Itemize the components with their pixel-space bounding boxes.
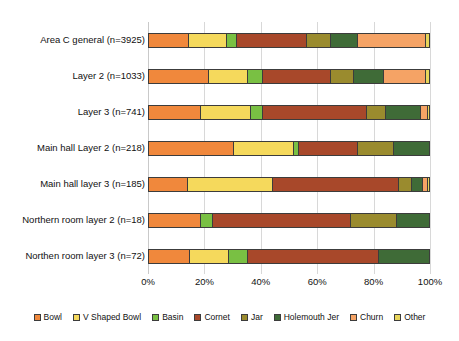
category-label: Northern room layer 2 (n=18) [3,214,145,225]
x-tick-label: 20% [195,276,214,287]
bar-segment-basin[interactable] [227,34,238,47]
legend-item-cornet[interactable]: Cornet [194,312,230,322]
bar-segment-basin[interactable] [229,250,248,263]
legend-label: V Shaped Bowl [83,312,141,322]
bar-segment-other[interactable] [426,70,429,83]
legend-item-holemouth-jer[interactable]: Holemouth Jer [274,312,339,322]
bar-segment-churn[interactable] [384,70,426,83]
bar-row [148,22,430,58]
bar-segment-cornet[interactable] [237,34,306,47]
bar-segment-v-shaped-bowl[interactable] [190,250,230,263]
legend-item-churn[interactable]: Churn [350,312,383,322]
stacked-bar[interactable] [148,213,430,228]
legend-label: Bowl [44,312,62,322]
category-axis-labels: Area C general (n=3925)Layer 2 (n=1033)L… [0,22,145,274]
bar-segment-basin[interactable] [248,70,263,83]
bar-segment-jar[interactable] [307,34,331,47]
bar-segment-v-shaped-bowl[interactable] [189,34,227,47]
bar-segment-bowl[interactable] [149,178,188,191]
bar-segment-cornet[interactable] [248,250,378,263]
legend-label: Basin [162,312,183,322]
stacked-bar[interactable] [148,33,430,48]
bar-segment-v-shaped-bowl[interactable] [234,142,294,155]
legend-swatch-icon [241,314,248,321]
category-label: Main hall layer 3 (n=185) [3,178,145,189]
x-tick-label: 40% [251,276,270,287]
bar-row [148,130,430,166]
bar-segment-bowl[interactable] [149,142,234,155]
legend-item-basin[interactable]: Basin [152,312,183,322]
chart-legend: BowlV Shaped BowlBasinCornetJarHolemouth… [0,306,459,328]
bar-row [148,58,430,94]
stacked-bar[interactable] [148,105,430,120]
bar-segment-holemouth-jer[interactable] [394,142,429,155]
legend-swatch-icon [394,314,401,321]
bar-segment-cornet[interactable] [213,214,351,227]
bar-segment-basin[interactable] [201,214,214,227]
x-tick-label: 80% [364,276,383,287]
stacked-bar[interactable] [148,249,430,264]
bar-row [148,166,430,202]
legend-swatch-icon [350,314,357,321]
bar-series-container [148,22,430,274]
bar-segment-churn[interactable] [358,34,427,47]
bar-segment-v-shaped-bowl[interactable] [201,106,252,119]
bar-segment-holemouth-jer[interactable] [354,70,384,83]
legend-swatch-icon [34,314,41,321]
bar-segment-jar[interactable] [367,106,386,119]
gridline-100 [430,22,431,274]
bar-row [148,94,430,130]
stacked-bar-chart: Area C general (n=3925)Layer 2 (n=1033)L… [0,0,459,341]
plot-area [148,22,430,274]
bar-segment-churn[interactable] [421,106,428,119]
bar-segment-holemouth-jer[interactable] [397,214,429,227]
bar-segment-holemouth-jer[interactable] [386,106,421,119]
legend-label: Churn [360,312,383,322]
legend-item-v-shaped-bowl[interactable]: V Shaped Bowl [73,312,141,322]
category-label: Layer 3 (n=741) [3,106,145,117]
value-axis-labels: 0%20%40%60%80%100% [148,276,430,292]
legend-label: Other [404,312,425,322]
bar-segment-other[interactable] [428,106,429,119]
bar-segment-bowl[interactable] [149,70,209,83]
stacked-bar[interactable] [148,69,430,84]
bar-segment-v-shaped-bowl[interactable] [209,70,249,83]
bar-segment-other[interactable] [428,178,429,191]
bar-row [148,238,430,274]
bar-segment-cornet[interactable] [263,70,330,83]
legend-label: Cornet [204,312,230,322]
legend-swatch-icon [73,314,80,321]
bar-segment-holemouth-jer[interactable] [331,34,358,47]
x-tick-label: 0% [141,276,155,287]
category-label: Main hall Layer 2 (n=218) [3,142,145,153]
bar-row [148,202,430,238]
stacked-bar[interactable] [148,177,430,192]
category-label: Northen room layer 3 (n=72) [3,250,145,261]
legend-label: Jar [251,312,263,322]
bar-segment-holemouth-jer[interactable] [379,250,429,263]
bar-segment-bowl[interactable] [149,250,190,263]
category-label: Area C general (n=3925) [3,34,145,45]
legend-swatch-icon [152,314,159,321]
stacked-bar[interactable] [148,141,430,156]
bar-segment-cornet[interactable] [299,142,358,155]
bar-segment-bowl[interactable] [149,214,201,227]
x-tick-label: 100% [418,276,442,287]
bar-segment-other[interactable] [426,34,429,47]
bar-segment-cornet[interactable] [273,178,399,191]
bar-segment-bowl[interactable] [149,106,201,119]
bar-segment-holemouth-jer[interactable] [412,178,423,191]
legend-swatch-icon [274,314,281,321]
bar-segment-jar[interactable] [351,214,397,227]
bar-segment-jar[interactable] [331,70,355,83]
legend-item-jar[interactable]: Jar [241,312,263,322]
bar-segment-jar[interactable] [358,142,395,155]
legend-item-bowl[interactable]: Bowl [34,312,62,322]
bar-segment-basin[interactable] [251,106,263,119]
bar-segment-jar[interactable] [399,178,412,191]
bar-segment-cornet[interactable] [263,106,367,119]
bar-segment-bowl[interactable] [149,34,189,47]
x-tick-label: 60% [308,276,327,287]
legend-item-other[interactable]: Other [394,312,425,322]
bar-segment-v-shaped-bowl[interactable] [188,178,273,191]
